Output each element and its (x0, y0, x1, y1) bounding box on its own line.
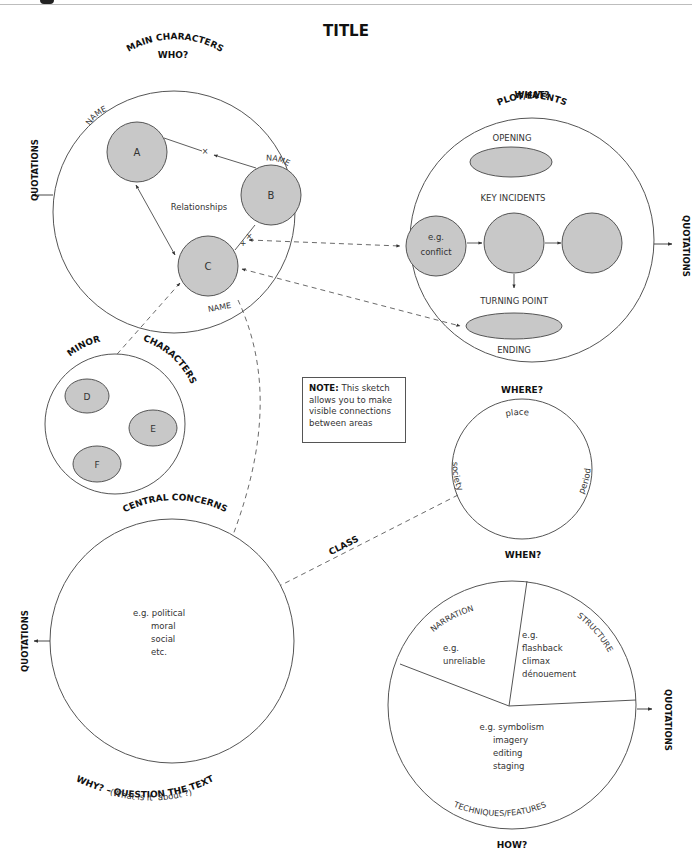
incident-1-example-line1: e.g. (428, 232, 444, 242)
incident-2-node (484, 213, 544, 273)
main-characters-section: WHO? MAIN CHARACTERS QUOTATIONS × × + A … (30, 31, 301, 333)
character-c-letter: C (205, 261, 212, 272)
central-concerns-heading: CENTRAL CONCERNS (121, 492, 229, 514)
character-a-letter: A (134, 147, 141, 158)
feature-example-3: editing (493, 748, 522, 758)
character-e-letter: E (150, 424, 156, 434)
concern-example-4: etc. (151, 647, 167, 657)
opening-node (470, 147, 552, 177)
incident-3-node (562, 213, 622, 273)
cross-mark: + (240, 239, 247, 248)
place-label: place (505, 407, 530, 419)
concern-example-3: social (151, 634, 175, 644)
note-box: NOTE: This sketch allows you to make vis… (302, 377, 406, 443)
structure-example-2: flashback (522, 643, 563, 653)
concerns-quotations-label: QUOTATIONS (20, 610, 30, 672)
narration-example-2: unreliable (443, 656, 485, 666)
turning-point-node (466, 313, 562, 339)
techniques-circle (388, 581, 636, 829)
feature-example-1: e.g. symbolism (480, 722, 545, 732)
minor-characters-section: MINOR CHARACTERS D E F (45, 333, 199, 494)
page-title: TITLE (323, 22, 369, 40)
central-concerns-section: CENTRAL CONCERNS QUOTATIONS e.g. politic… (20, 492, 294, 802)
incident-1-node (406, 216, 466, 276)
concern-example-1: e.g. political (133, 608, 185, 618)
feature-example-2: imagery (493, 735, 528, 745)
setting-circle (452, 399, 592, 539)
plot-events-section: WHAT? PLOT/EVENTS OPENING KEY INCIDENTS … (406, 90, 691, 362)
opening-label: OPENING (493, 133, 532, 143)
where-question: WHERE? (501, 385, 543, 395)
relationships-label: Relationships (171, 202, 228, 212)
how-question: HOW? (497, 840, 527, 850)
incident-1-example-line2: conflict (421, 247, 453, 257)
ending-label: ENDING (497, 345, 531, 355)
feature-example-4: staging (493, 761, 525, 771)
key-incidents-label: KEY INCIDENTS (480, 193, 545, 203)
character-b-letter: B (268, 190, 275, 201)
note-label: NOTE: (309, 383, 339, 393)
structure-example-3: climax (522, 656, 550, 666)
who-question: WHO? (158, 50, 188, 60)
character-d-letter: D (84, 392, 91, 402)
concern-example-2: moral (151, 621, 176, 631)
narration-example-1: e.g. (443, 643, 459, 653)
cross-mark: × (246, 232, 253, 241)
plot-events-heading: PLOT/EVENTS (496, 90, 569, 107)
main-quotations-label: QUOTATIONS (30, 139, 40, 201)
setting-section: WHERE? place society period WHEN? (450, 385, 592, 560)
cross-mark: × (202, 147, 209, 156)
when-question: WHEN? (505, 550, 541, 560)
techniques-quotations-label: QUOTATIONS (663, 689, 673, 751)
plot-quotations-label: QUOTATIONS (681, 215, 691, 277)
structure-example-1: e.g. (522, 630, 538, 640)
techniques-section: NARRATION e.g. unreliable STRUCTURE e.g.… (388, 581, 673, 850)
minor-heading: MINOR (65, 334, 101, 359)
turning-point-label: TURNING POINT (479, 296, 549, 306)
character-f-letter: F (94, 460, 99, 470)
structure-example-4: dénouement (522, 669, 577, 679)
